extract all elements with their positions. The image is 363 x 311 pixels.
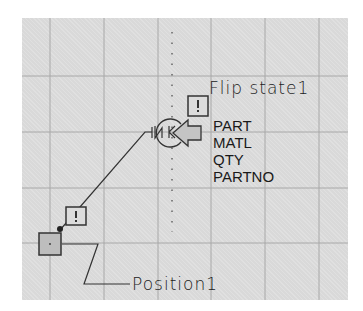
parameter-matl[interactable]: MATL bbox=[213, 134, 252, 151]
parameter-partno[interactable]: PARTNO bbox=[213, 168, 274, 185]
flip-arrow-icon[interactable] bbox=[173, 120, 201, 146]
parameter-part[interactable]: PART bbox=[213, 117, 252, 134]
parameter-qty[interactable]: QTY bbox=[213, 151, 244, 168]
warning-icon-position[interactable] bbox=[66, 207, 86, 225]
connection-point-icon bbox=[57, 226, 63, 232]
grid bbox=[22, 18, 348, 300]
flip-state-label[interactable]: Flip state1 bbox=[209, 78, 309, 98]
position-node[interactable] bbox=[39, 233, 61, 255]
position-label[interactable]: Position1 bbox=[132, 274, 218, 294]
position-leader bbox=[62, 244, 130, 284]
diagram-graphics bbox=[0, 0, 363, 311]
warning-icon-flip-state[interactable] bbox=[188, 96, 208, 116]
